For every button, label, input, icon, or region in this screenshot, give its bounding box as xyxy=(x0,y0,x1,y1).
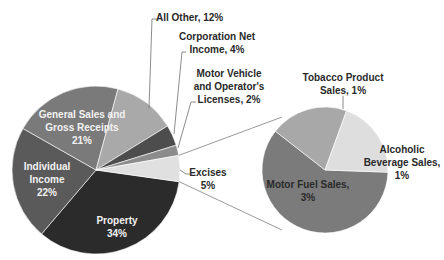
label-corporation: Corporation Net Income, 4% xyxy=(174,30,260,56)
leader-motor-vehicle xyxy=(178,102,196,148)
label-all-other: All Other, 12% xyxy=(156,11,246,24)
label-property: Property 34% xyxy=(82,214,152,240)
label-alcoholic: Alcoholic Beverage Sales, 1% xyxy=(362,143,442,182)
label-tobacco: Tobacco Product Sales, 1% xyxy=(300,71,386,97)
label-motor-vehicle: Motor Vehicle and Operator's Licenses, 2… xyxy=(186,67,272,106)
leader-corporation xyxy=(174,52,186,134)
label-excises: Excises 5% xyxy=(188,166,228,192)
leader-all-other xyxy=(149,19,157,108)
label-motor-fuel: Motor Fuel Sales, 3% xyxy=(262,178,354,204)
label-individual-income: Individual Income 22% xyxy=(12,160,82,199)
label-general-sales: General Sales and Gross Receipts 21% xyxy=(22,108,142,147)
